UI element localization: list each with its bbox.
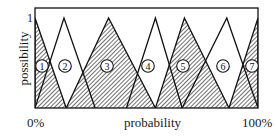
x-axis-label: probability: [124, 116, 181, 129]
set-marker-label-5: 5: [181, 61, 186, 72]
set-marker-label-2: 2: [63, 61, 68, 72]
set-marker-label-3: 3: [105, 61, 110, 72]
y-max-tick-label: 1: [27, 12, 33, 24]
x-min-tick-label: 0%: [27, 116, 44, 129]
x-max-tick-label: 100%: [242, 116, 272, 129]
y-axis-label: possibility: [17, 24, 30, 94]
set-marker-label-4: 4: [146, 61, 151, 72]
set-number-markers: 1234567: [36, 60, 259, 73]
set-marker-label-1: 1: [40, 61, 45, 72]
set-marker-label-7: 7: [250, 61, 255, 72]
set-marker-label-6: 6: [221, 61, 226, 72]
